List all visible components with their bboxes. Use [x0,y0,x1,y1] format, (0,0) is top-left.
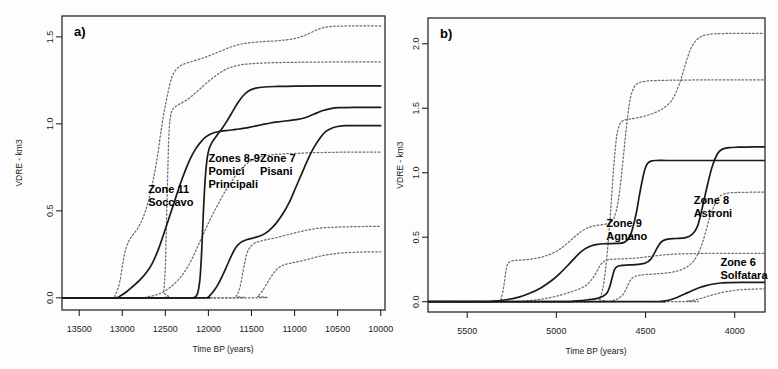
y-tick-label: 2.0 [411,38,421,51]
annotation-zones-8-9-pomici-principali: Zones 8-9PomiciPrincipali [208,152,259,190]
series-curve [62,226,381,297]
annotation-zone-8-astroni: Zone 8Astroni [694,194,733,219]
y-tick-label: 0.5 [45,205,55,218]
x-tick-label: 12500 [153,324,178,334]
annotation-line: Zone 9 [606,217,641,229]
x-tick-label: 4000 [725,326,745,336]
series-curve [62,107,381,298]
y-axis-title: VDRE - km3 [395,141,405,189]
x-tick-label: 4500 [636,326,656,336]
annotation-line: Solfatara [720,269,768,281]
dual-panel-chart: a)13500130001250012000115001100010500100… [0,0,778,369]
series-curve [428,147,765,302]
annotation-line: Principali [208,178,258,190]
annotation-line: Zone 7 [260,152,295,164]
annotation-line: Zone 6 [720,256,755,268]
y-tick-label: 1.5 [45,31,55,44]
y-axis-title: VDRE - km3 [14,139,24,187]
panel-b: b)55005000450040000.00.51.01.52.0VDRE - … [395,18,768,356]
x-axis-title: Time BP (years) [193,344,254,354]
annotation-line: Pomici [208,165,244,177]
y-tick-label: 0.0 [411,295,421,308]
annotation-line: Agnano [606,230,647,242]
annotation-line: Zones 8-9 [208,152,259,164]
x-tick-label: 10500 [325,324,350,334]
panel-tag: a) [74,24,86,39]
x-tick-label: 5000 [546,326,566,336]
annotation-line: Zone 8 [694,194,729,206]
x-tick-label: 12000 [196,324,221,334]
annotation-line: Pisani [260,165,292,177]
series-curve [428,80,765,302]
y-tick-label: 1.5 [411,102,421,115]
annotation-zone-9-agnano: Zone 9Agnano [606,217,647,242]
figure-container: a)13500130001250012000115001100010500100… [0,0,778,369]
y-tick-label: 0.0 [45,292,55,305]
annotation-line: Astroni [694,207,733,219]
x-tick-label: 13500 [67,324,92,334]
annotation-line: Soccavo [148,196,194,208]
series-curve [428,289,765,302]
annotation-line: Zone 11 [148,183,189,195]
curves-group [428,33,765,302]
y-tick-label: 1.0 [411,166,421,179]
series-curve [62,86,381,298]
series-curve [428,160,765,301]
series-curve [428,33,765,301]
x-tick-label: 11500 [239,324,263,334]
annotation-zone-7-pisani: Zone 7Pisani [260,152,295,177]
x-tick-label: 10000 [368,324,393,334]
series-curve [62,252,381,298]
y-tick-label: 1.0 [45,118,55,131]
annotation-zone-6-solfatara: Zone 6Solfatara [720,256,768,281]
x-tick-label: 13000 [110,324,135,334]
x-axis-title: Time BP (years) [566,346,627,356]
annotation-zone-11-soccavo: Zone 11Soccavo [148,183,194,208]
panel-a: a)13500130001250012000115001100010500100… [14,16,393,354]
y-tick-label: 0.5 [411,231,421,244]
panel-tag: b) [440,26,452,41]
plot-frame [428,18,765,312]
x-tick-label: 5500 [457,326,477,336]
x-tick-label: 11000 [282,324,306,334]
